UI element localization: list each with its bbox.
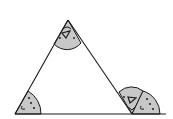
triangle-angle-sum-diagram [0, 0, 173, 119]
dot-mark-icon [28, 97, 30, 99]
dot-mark-icon [146, 98, 148, 100]
apex-angle-sector [54, 20, 81, 50]
bottom-left-angle-sector [15, 91, 41, 114]
